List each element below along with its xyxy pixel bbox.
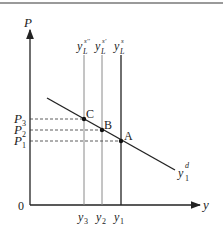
svg-text:y: y [77, 210, 84, 224]
svg-text:s': s' [102, 37, 107, 45]
quantity-label-y2: y 2 [95, 210, 106, 226]
svg-text:y: y [113, 210, 120, 224]
svg-text:L: L [100, 47, 106, 56]
y-axis-label: P [23, 15, 32, 30]
svg-text:3: 3 [22, 119, 26, 128]
svg-text:L: L [82, 47, 88, 56]
supply-demand-diagram: P y 0 y L s'' y L s' y L s y 1 d C B A P… [0, 0, 223, 233]
svg-text:s'': s'' [84, 37, 90, 45]
svg-text:1: 1 [22, 141, 26, 150]
point-a [119, 139, 123, 143]
supply-label-s-double-prime: y L s'' [76, 37, 90, 56]
point-c-label: C [86, 107, 94, 121]
svg-text:3: 3 [84, 217, 88, 226]
quantity-label-y1: y 1 [113, 210, 124, 226]
svg-text:d: d [185, 161, 190, 170]
svg-text:2: 2 [22, 130, 26, 139]
svg-text:P: P [13, 133, 22, 148]
svg-text:s: s [121, 37, 124, 45]
svg-text:y: y [94, 39, 101, 53]
supply-label-s: y L s [113, 37, 125, 56]
demand-line [47, 98, 175, 170]
quantity-label-y3: y 3 [77, 210, 88, 226]
svg-text:y: y [76, 39, 83, 53]
point-b-label: B [104, 118, 112, 132]
svg-text:1: 1 [120, 217, 124, 226]
svg-text:1: 1 [185, 174, 189, 183]
demand-label: y 1 d [177, 161, 190, 183]
point-a-label: A [124, 129, 133, 143]
origin-label: 0 [18, 199, 24, 213]
svg-text:y: y [95, 210, 102, 224]
svg-text:2: 2 [102, 217, 106, 226]
svg-text:y: y [177, 166, 184, 180]
supply-label-s-prime: y L s' [94, 37, 107, 56]
svg-text:L: L [119, 47, 125, 56]
x-axis-label: y [201, 197, 209, 212]
svg-text:y: y [113, 39, 120, 53]
